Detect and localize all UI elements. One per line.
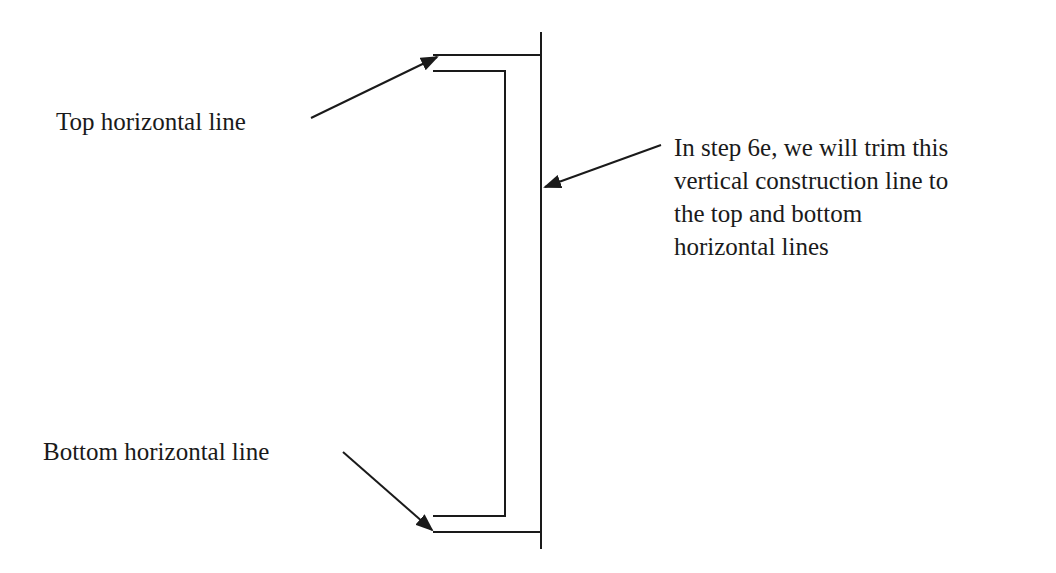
bottom-horizontal-line-label: Bottom horizontal line xyxy=(43,435,269,468)
arrow-note-icon xyxy=(545,145,661,187)
note-line: vertical construction line to xyxy=(674,164,1054,197)
note-line: the top and bottom xyxy=(674,197,1054,230)
diagram-drawing xyxy=(0,0,1056,573)
inner-bracket-line xyxy=(433,71,505,516)
trim-step-note: In step 6e, we will trim this vertical c… xyxy=(674,131,1054,263)
arrow-bottom-label-icon xyxy=(343,452,432,530)
note-line: In step 6e, we will trim this xyxy=(674,131,1054,164)
diagram-canvas: Top horizontal line Bottom horizontal li… xyxy=(0,0,1056,573)
top-horizontal-line-label: Top horizontal line xyxy=(56,105,246,138)
arrow-top-label-icon xyxy=(311,57,437,118)
note-line: horizontal lines xyxy=(674,230,1054,263)
